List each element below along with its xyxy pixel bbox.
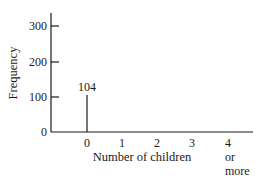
- y-axis-label: Frequency: [6, 46, 20, 100]
- x-tick-label-4-or: or: [225, 150, 235, 164]
- x-tick-label-4: 4: [225, 136, 231, 150]
- x-axis-label: Number of children: [93, 150, 192, 164]
- x-tick-label-1: 1: [119, 136, 125, 150]
- bar-0-value-label: 104: [78, 80, 96, 94]
- x-tick-label-4-more: more: [225, 164, 250, 178]
- chart-svg: 300 200 100 0 Frequency 104 0 1 2 3 4 or…: [0, 0, 261, 181]
- frequency-chart: 300 200 100 0 Frequency 104 0 1 2 3 4 or…: [0, 0, 261, 181]
- x-tick-label-3: 3: [189, 136, 195, 150]
- y-tick-label-100: 100: [29, 90, 47, 104]
- y-tick-label-200: 200: [29, 55, 47, 69]
- x-tick-label-0: 0: [84, 136, 90, 150]
- x-tick-label-2: 2: [154, 136, 160, 150]
- y-tick-label-300: 300: [29, 19, 47, 33]
- y-tick-label-0: 0: [41, 125, 47, 139]
